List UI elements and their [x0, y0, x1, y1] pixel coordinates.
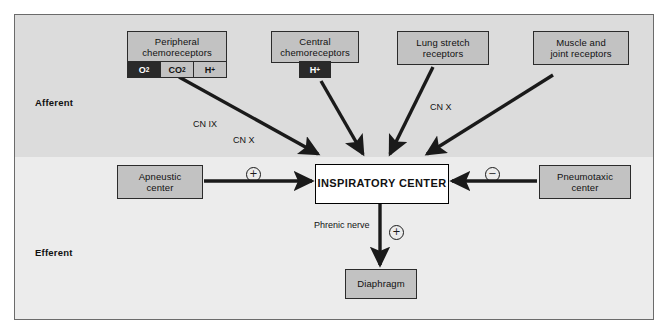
node-diaphragm[interactable]: Diaphragm — [345, 269, 417, 299]
node-pneumotaxic-center[interactable]: Pneumotaxic center — [539, 165, 631, 199]
cell-h-sup: + — [211, 66, 215, 73]
inspiratory-center-label: INSPIRATORY CENTER — [317, 178, 446, 190]
central-chemoreceptors-label-line2: chemoreceptors — [280, 47, 350, 59]
peripheral-chemoreceptors-stimulus-cells: O2 CO2 H+ — [127, 61, 227, 78]
cell-co2-symbol: CO — [168, 65, 182, 75]
pneumotaxic-center-label-line2: center — [557, 182, 613, 194]
cell-o2-sub: 2 — [146, 66, 150, 73]
cell-co2[interactable]: CO2 — [161, 62, 194, 77]
diagram-canvas: Afferent Efferent Peripheral chemorecept… — [0, 0, 670, 334]
muscle-joint-receptors-label-line1: Muscle and — [550, 37, 611, 49]
node-central-chemoreceptors[interactable]: Central chemoreceptors — [271, 31, 359, 63]
cell-h-central-sup: + — [316, 66, 320, 73]
cell-h-plus-central[interactable]: H+ — [300, 62, 330, 77]
phrenic-nerve-label-line1: Phrenic — [314, 220, 345, 230]
diagram-frame: Afferent Efferent Peripheral chemorecept… — [14, 14, 654, 320]
annotation-cn-x-right: CN X — [430, 102, 452, 113]
efferent-section-label: Efferent — [35, 247, 73, 258]
apneustic-center-label-line2: center — [139, 182, 182, 194]
node-inspiratory-center[interactable]: INSPIRATORY CENTER — [315, 164, 449, 204]
lung-stretch-receptors-label-line2: receptors — [416, 48, 469, 60]
lung-stretch-receptors-label-line1: Lung stretch — [416, 37, 469, 49]
peripheral-chemoreceptors-label-line2: chemoreceptors — [142, 47, 212, 59]
phrenic-nerve-label-line2: nerve — [347, 220, 370, 230]
peripheral-chemoreceptors-label-line1: Peripheral — [142, 36, 212, 48]
cell-o2[interactable]: O2 — [128, 62, 161, 77]
minus-sign-pneumotaxic-icon: − — [485, 167, 500, 182]
cell-o2-symbol: O — [139, 65, 146, 75]
annotation-phrenic-nerve: Phrenic nerve — [314, 220, 360, 231]
central-chemoreceptors-label-line1: Central — [280, 36, 350, 48]
node-peripheral-chemoreceptors[interactable]: Peripheral chemoreceptors — [127, 31, 227, 63]
diaphragm-label: Diaphragm — [357, 278, 404, 290]
node-apneustic-center[interactable]: Apneustic center — [117, 165, 203, 199]
afferent-section-label: Afferent — [35, 97, 73, 108]
node-muscle-joint-receptors[interactable]: Muscle and joint receptors — [533, 31, 629, 65]
plus-sign-phrenic-icon: + — [389, 225, 404, 240]
cell-h-plus-peripheral[interactable]: H+ — [194, 62, 226, 77]
apneustic-center-label-line1: Apneustic — [139, 171, 182, 183]
cell-co2-sub: 2 — [182, 66, 186, 73]
central-chemoreceptors-stimulus-cells: H+ — [299, 61, 331, 78]
pneumotaxic-center-label-line1: Pneumotaxic — [557, 171, 613, 183]
node-lung-stretch-receptors[interactable]: Lung stretch receptors — [397, 31, 489, 65]
annotation-cn-x-left: CN X — [233, 135, 255, 146]
muscle-joint-receptors-label-line2: joint receptors — [550, 48, 611, 60]
annotation-cn-ix: CN IX — [193, 119, 217, 130]
plus-sign-apneustic-icon: + — [246, 167, 261, 182]
